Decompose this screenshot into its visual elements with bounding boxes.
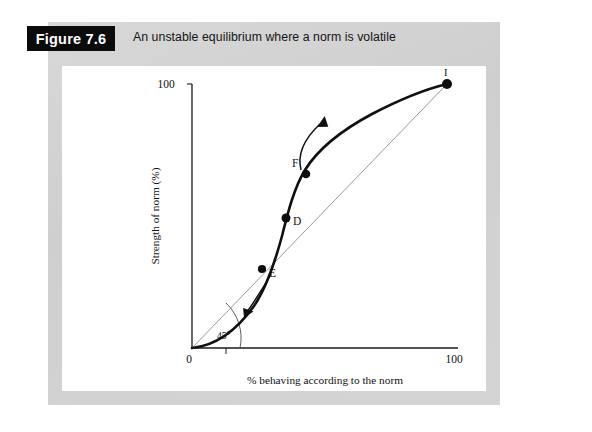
figure-number-badge: Figure 7.6 <box>27 26 115 51</box>
data-point-E <box>258 265 266 273</box>
angle-45-label: 45° <box>217 331 231 341</box>
data-point-label-F: F <box>292 157 298 169</box>
data-point-F <box>302 170 311 179</box>
data-point-D <box>282 214 291 223</box>
data-point-label-E: E <box>269 267 276 279</box>
x-axis-min-label: 0 <box>186 353 192 365</box>
data-point-label-I: I <box>444 67 448 78</box>
y-axis-max-label: 100 <box>157 78 175 90</box>
data-point-label-D: D <box>293 215 301 227</box>
chart-svg: E D F I 100 0 100 45° % behaving accordi… <box>62 66 486 391</box>
arrow-head-up <box>317 115 330 128</box>
chart-canvas: E D F I 100 0 100 45° % behaving accordi… <box>62 66 486 391</box>
figure-number-label: Figure 7.6 <box>36 31 107 47</box>
data-point-I <box>442 79 452 89</box>
y-axis-title: Strength of norm (%) <box>149 167 162 264</box>
x-axis-max-label: 100 <box>445 353 463 365</box>
arrow-down-from-E <box>247 274 271 312</box>
x-axis-title: % behaving according to the norm <box>247 374 403 386</box>
figure-caption: An unstable equilibrium where a norm is … <box>133 30 396 44</box>
